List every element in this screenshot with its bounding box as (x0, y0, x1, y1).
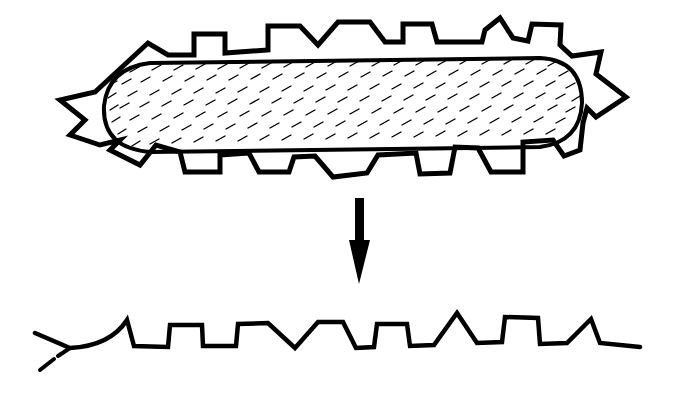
unrolled-wall-profile (35, 313, 640, 370)
down-arrow-icon (349, 198, 370, 284)
diagram-canvas: Unfolded cell outline with protrusions (0, 0, 674, 394)
cell-hatching (108, 59, 580, 146)
diagram-svg (0, 0, 674, 394)
cell-body (104, 58, 582, 152)
